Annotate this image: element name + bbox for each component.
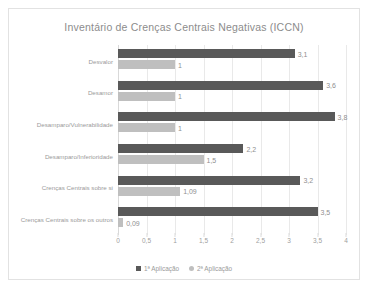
- bar-value-label: 3,5: [321, 208, 331, 215]
- plot-area: Desvalor3,11Desamor3,61Desamparo/Vulnera…: [118, 45, 346, 235]
- legend-label: 2ª Aplicação: [197, 265, 232, 272]
- legend-swatch-icon: [189, 266, 194, 271]
- x-tick-label: 0,5: [142, 237, 151, 244]
- bar-series-1: 3,5: [118, 207, 318, 216]
- x-tick-label: 4: [344, 237, 348, 244]
- chart-bar-group: Desvalor3,11: [118, 45, 346, 77]
- x-tick-label: 0: [116, 237, 120, 244]
- bar-series-2: 1,09: [118, 187, 180, 196]
- x-tick-label: 3,5: [313, 237, 322, 244]
- bar-series-1: 3,8: [118, 112, 335, 121]
- x-tick-label: 2: [230, 237, 234, 244]
- bar-value-label: 3,6: [326, 82, 336, 89]
- category-label: Crenças Centrais sobre si: [42, 184, 113, 191]
- bar-series-2: 1: [118, 123, 175, 132]
- legend-item-1[interactable]: 1ª Aplicação: [136, 265, 179, 272]
- chart-bar-group: Desamparo/Inferioridade2,21,5: [118, 140, 346, 172]
- bar-value-label: 1: [178, 61, 182, 68]
- bar-value-label: 1,09: [183, 188, 197, 195]
- bar-value-label: 3,8: [338, 113, 348, 120]
- bar-series-1: 3,1: [118, 49, 295, 58]
- bar-series-2: 1,5: [118, 155, 204, 164]
- bar-value-label: 1,5: [207, 156, 217, 163]
- x-tick-label: 1: [173, 237, 177, 244]
- category-label: Desamparo/Vulnerabilidade: [37, 121, 113, 128]
- chart-bar-group: Crenças Centrais sobre os outros3,50,09: [118, 203, 346, 235]
- legend-swatch-icon: [136, 266, 141, 271]
- x-tick-label: 1,5: [199, 237, 208, 244]
- chart-bar-group: Desamparo/Vulnerabilidade3,81: [118, 108, 346, 140]
- bar-series-1: 3,6: [118, 81, 323, 90]
- bar-value-label: 3,1: [298, 50, 308, 57]
- bar-series-2: 1: [118, 92, 175, 101]
- x-axis: 00,511,522,533,54: [118, 237, 346, 249]
- bar-series-1: 2,2: [118, 144, 243, 153]
- bar-value-label: 0,09: [126, 219, 140, 226]
- chart-bar-group: Desamor3,61: [118, 77, 346, 109]
- bar-value-label: 3,2: [303, 177, 313, 184]
- category-label: Desamor: [88, 89, 113, 96]
- category-label: Desvalor: [89, 57, 113, 64]
- bar-series-2: 0,09: [118, 218, 123, 227]
- chart-title: Inventário de Crenças Centrais Negativas…: [9, 21, 359, 33]
- gridline: [346, 45, 347, 235]
- chart-container: Inventário de Crenças Centrais Negativas…: [8, 8, 360, 280]
- bar-value-label: 1: [178, 124, 182, 131]
- x-tick-label: 3: [287, 237, 291, 244]
- chart-legend: 1ª Aplicação2ª Aplicação: [9, 265, 359, 272]
- chart-bar-group: Crenças Centrais sobre si3,21,09: [118, 172, 346, 204]
- x-tick-label: 2,5: [256, 237, 265, 244]
- category-label: Crenças Centrais sobre os outros: [21, 216, 113, 223]
- legend-label: 1ª Aplicação: [144, 265, 179, 272]
- bar-series-2: 1: [118, 60, 175, 69]
- legend-item-2[interactable]: 2ª Aplicação: [189, 265, 232, 272]
- bar-value-label: 1: [178, 93, 182, 100]
- category-label: Desamparo/Inferioridade: [45, 152, 113, 159]
- bar-series-1: 3,2: [118, 176, 300, 185]
- bar-value-label: 2,2: [246, 145, 256, 152]
